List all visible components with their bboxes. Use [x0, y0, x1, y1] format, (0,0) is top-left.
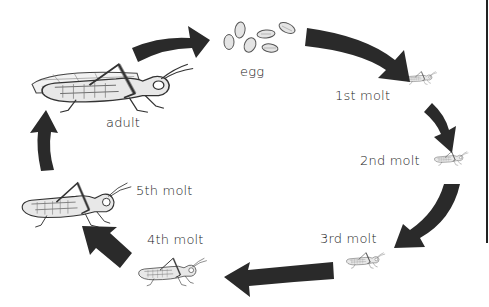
stage-label-3rd-molt: 3rd molt — [320, 231, 377, 246]
eggs-illustration — [224, 20, 297, 54]
stage-label-adult: adult — [106, 115, 140, 130]
second-molt-illustration — [434, 152, 468, 166]
arrow-1st-to-2nd-molt — [424, 103, 456, 153]
stage-label-4th-molt: 4th molt — [147, 232, 204, 247]
first-molt-illustration — [405, 72, 437, 85]
arrow-adult-to-egg — [132, 26, 210, 62]
stage-label-5th-molt: 5th molt — [136, 183, 193, 198]
fifth-molt-illustration — [22, 183, 131, 227]
stage-label-2nd-molt: 2nd molt — [360, 153, 420, 168]
arrow-egg-to-1st-molt — [305, 28, 410, 82]
stage-label-1st-molt: 1st molt — [335, 88, 390, 103]
life-cycle-diagram: egg 1st molt 2nd molt 3rd molt 4th molt … — [0, 0, 489, 307]
arrow-2nd-to-3rd-molt — [394, 184, 460, 248]
arrow-3rd-to-4th-molt — [224, 262, 334, 297]
fourth-molt-illustration — [139, 258, 207, 286]
adult-grasshopper-illustration — [32, 64, 193, 112]
arrow-4th-to-5th-molt — [82, 226, 132, 268]
arrow-5th-to-adult — [30, 110, 58, 171]
stage-label-egg: egg — [240, 64, 264, 79]
right-border-line — [486, 0, 488, 243]
third-molt-illustration — [346, 253, 385, 269]
